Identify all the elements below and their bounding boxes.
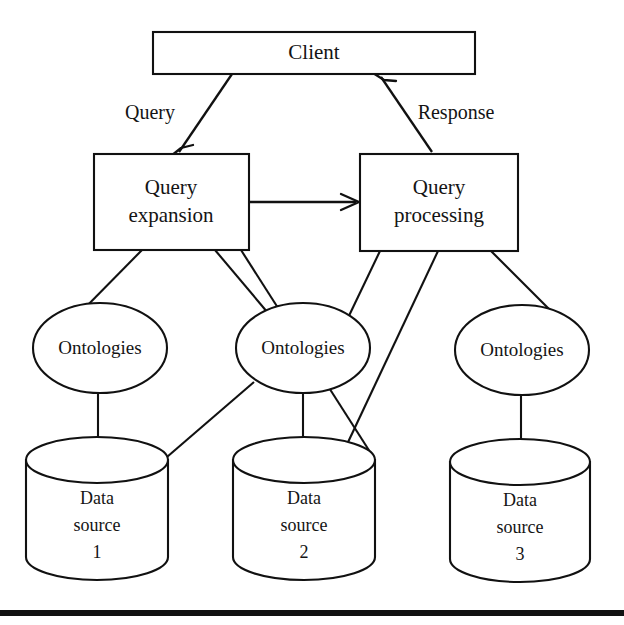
data-source-3-label-line2: source (497, 517, 544, 537)
data-source-2-label-line3: 2 (300, 542, 309, 562)
ontology-3-label: Ontologies (480, 339, 563, 360)
query-arrow-line (179, 74, 232, 152)
query-processing-label-line1: Query (413, 175, 466, 199)
node-ontology-3: Ontologies (455, 305, 589, 395)
client-label: Client (288, 40, 339, 64)
data-source-1-label-line3: 1 (93, 542, 102, 562)
node-query-expansion: Query expansion (94, 154, 249, 250)
data-source-1-label-line1: Data (80, 488, 114, 508)
data-source-3-label-line1: Data (503, 490, 537, 510)
node-data-source-2: Data source 2 (233, 437, 375, 580)
node-data-source-1: Data source 1 (26, 437, 168, 580)
query-expansion-label-line2: expansion (128, 203, 214, 227)
ontology-1-label: Ontologies (58, 337, 141, 358)
node-data-source-3: Data source 3 (450, 439, 590, 582)
data-source-2-label-line2: source (281, 515, 328, 535)
edge-response: Response (373, 73, 494, 152)
data-source-2-top (233, 437, 375, 483)
connector-query-processing-to-ontology-2 (346, 251, 380, 322)
node-query-processing: Query processing (360, 154, 518, 251)
architecture-diagram: Query Response Client Query expansion Qu… (0, 0, 624, 625)
node-client: Client (153, 32, 475, 74)
data-source-3-label-line3: 3 (516, 544, 525, 564)
data-source-1-top (26, 437, 168, 483)
data-source-1-label-line2: source (74, 515, 121, 535)
edge-label-query: Query (125, 101, 175, 124)
data-source-2-label-line1: Data (287, 488, 321, 508)
edge-label-response: Response (418, 101, 495, 124)
query-expansion-label-line1: Query (145, 175, 198, 199)
node-ontology-1: Ontologies (33, 303, 167, 393)
data-source-3-top (450, 439, 590, 485)
ontology-2-label: Ontologies (261, 337, 344, 358)
bottom-divider (0, 610, 624, 616)
edge-expansion-to-processing (249, 194, 359, 210)
node-ontology-2: Ontologies (236, 303, 370, 393)
query-processing-label-line2: processing (394, 203, 484, 227)
edge-query: Query (125, 74, 232, 156)
